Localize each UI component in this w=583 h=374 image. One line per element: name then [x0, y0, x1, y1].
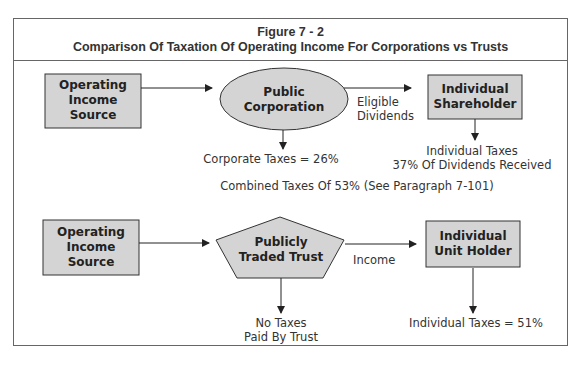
combined-taxes-label: Combined Taxes Of 53% (See Paragraph 7-1…	[220, 179, 493, 193]
individual-taxes-label: Individual Taxes	[426, 144, 517, 158]
corp-source-line2: Income	[68, 93, 117, 107]
income-label: Income	[353, 253, 395, 267]
shareholder-box: Individual Shareholder	[428, 75, 522, 119]
trust-source-line2: Income	[66, 240, 115, 254]
trust-entity-line2: Traded Trust	[239, 250, 324, 264]
corp-source-line1: Operating	[59, 78, 127, 92]
publicly-traded-trust-pentagon: Publicly Traded Trust	[216, 217, 344, 278]
corp-source-box: Operating Income Source	[45, 74, 141, 128]
unit-holder-line2: Unit Holder	[434, 244, 511, 258]
trust-source-line1: Operating	[57, 225, 125, 239]
shareholder-line2: Shareholder	[434, 97, 517, 111]
trust-entity-line1: Publicly	[254, 235, 307, 249]
corporate-taxes-label: Corporate Taxes = 26%	[203, 152, 338, 166]
flow-diagram: Operating Income Source Public Corporati…	[0, 0, 583, 374]
paid-by-trust-label: Paid By Trust	[244, 330, 318, 344]
individual-taxes-51-label: Individual Taxes = 51%	[409, 316, 543, 330]
dividends-label: Dividends	[357, 109, 414, 123]
trust-source-box: Operating Income Source	[43, 220, 139, 275]
unit-holder-line1: Individual	[440, 229, 507, 243]
no-taxes-label: No Taxes	[256, 316, 307, 330]
corp-entity-line2: Corporation	[244, 100, 324, 114]
eligible-label: Eligible	[357, 95, 399, 109]
shareholder-line1: Individual	[442, 82, 509, 96]
corp-entity-line1: Public	[263, 85, 304, 99]
trust-source-line3: Source	[68, 255, 115, 269]
corp-source-line3: Source	[70, 108, 117, 122]
dividends-tax-label: 37% Of Dividends Received	[393, 158, 552, 172]
unit-holder-box: Individual Unit Holder	[426, 221, 520, 267]
public-corporation-ellipse: Public Corporation	[220, 68, 348, 130]
